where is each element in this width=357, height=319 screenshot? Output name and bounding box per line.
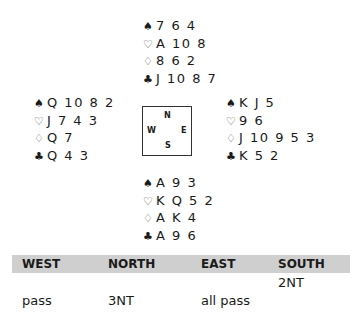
west-diamonds: ♢Q 7 (34, 129, 115, 147)
west-hand: ♠Q 10 8 2 ♡J 7 4 3 ♢Q 7 ♣Q 4 3 (34, 94, 115, 164)
west-clubs: ♣Q 4 3 (34, 147, 115, 165)
club-icon: ♣ (143, 71, 156, 89)
diamond-icon: ♢ (226, 130, 239, 148)
diamond-icon: ♢ (143, 210, 156, 228)
east-diamonds: ♢J 10 9 5 3 (226, 129, 316, 147)
spade-icon: ♠ (226, 95, 239, 113)
heart-icon: ♡ (143, 193, 156, 211)
header-east: EAST (201, 257, 235, 271)
heart-icon: ♡ (143, 36, 156, 54)
south-hand: ♠A 9 3 ♡K Q 5 2 ♢A K 4 ♣A 9 6 (143, 174, 214, 244)
auction-table: WEST NORTH EAST SOUTH 2NT pass 3NT all p… (12, 255, 350, 309)
bid: 3NT (108, 293, 134, 308)
club-icon: ♣ (226, 148, 239, 166)
bid: all pass (201, 293, 250, 308)
diamond-icon: ♢ (143, 53, 156, 71)
south-spades: ♠A 9 3 (143, 174, 214, 192)
east-spades: ♠K J 5 (226, 94, 316, 112)
diamond-icon: ♢ (34, 130, 47, 148)
east-hand: ♠K J 5 ♡9 6 ♢J 10 9 5 3 ♣K 5 2 (226, 94, 316, 164)
south-hearts: ♡K Q 5 2 (143, 192, 214, 210)
compass-north: N (164, 110, 171, 120)
compass-south: S (165, 140, 171, 150)
club-icon: ♣ (34, 148, 47, 166)
north-spades: ♠7 6 4 (143, 17, 217, 35)
north-clubs: ♣J 10 8 7 (143, 70, 217, 88)
header-west: WEST (22, 257, 60, 271)
east-hearts: ♡9 6 (226, 112, 316, 130)
north-diamonds: ♢8 6 2 (143, 52, 217, 70)
auction-header: WEST NORTH EAST SOUTH (12, 255, 350, 273)
auction-row: pass 3NT all pass (12, 291, 350, 309)
club-icon: ♣ (143, 228, 156, 246)
east-clubs: ♣K 5 2 (226, 147, 316, 165)
heart-icon: ♡ (226, 113, 239, 131)
north-hand: ♠7 6 4 ♡A 10 8 ♢8 6 2 ♣J 10 8 7 (143, 17, 217, 87)
west-hearts: ♡J 7 4 3 (34, 112, 115, 130)
spade-icon: ♠ (143, 18, 156, 36)
compass-west: W (147, 125, 156, 135)
compass-box: N W E S (142, 106, 192, 156)
north-hearts: ♡A 10 8 (143, 35, 217, 53)
spade-icon: ♠ (143, 175, 156, 193)
south-diamonds: ♢A K 4 (143, 209, 214, 227)
heart-icon: ♡ (34, 113, 47, 131)
south-clubs: ♣A 9 6 (143, 227, 214, 245)
spade-icon: ♠ (34, 95, 47, 113)
header-south: SOUTH (278, 257, 325, 271)
west-spades: ♠Q 10 8 2 (34, 94, 115, 112)
auction-row: 2NT (12, 273, 350, 291)
bid: 2NT (278, 275, 304, 290)
header-north: NORTH (108, 257, 155, 271)
compass-east: E (181, 125, 187, 135)
bid: pass (22, 293, 52, 308)
